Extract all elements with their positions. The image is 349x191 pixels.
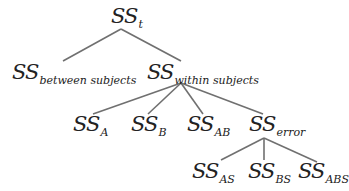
node-ss-between-subjects: SSbetween subjects xyxy=(12,62,136,83)
node-ss-error: SSerror xyxy=(249,114,305,135)
edge-within-error xyxy=(181,83,263,114)
ss-partition-tree: SSt SSbetween subjects SSwithin subjects… xyxy=(0,0,349,191)
node-ss-within-subjects: SSwithin subjects xyxy=(147,62,259,83)
edge-error-as xyxy=(221,138,264,160)
node-ss-b: SSB xyxy=(131,114,167,135)
node-ss-abs: SSABS xyxy=(298,161,349,182)
edge-within-a xyxy=(93,83,181,114)
node-ss-ab: SSAB xyxy=(187,114,230,135)
edge-within-b xyxy=(148,83,181,114)
edge-root-within xyxy=(121,29,181,61)
node-ss-a: SSA xyxy=(73,114,108,135)
tree-edges xyxy=(0,0,349,191)
node-ss-as: SSAS xyxy=(192,161,235,182)
edge-root-between xyxy=(63,29,121,61)
node-ss-bs: SSBS xyxy=(248,161,291,182)
node-ss-total: SSt xyxy=(111,6,143,27)
